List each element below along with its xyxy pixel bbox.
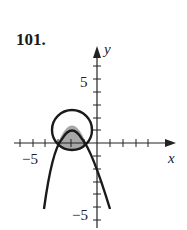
x-tick-label-neg5: −5 [22,151,38,167]
y-axis-label: y [102,41,111,57]
x-axis-label: x [167,150,175,166]
x-axis-arrow-icon [165,139,176,147]
y-tick-label-neg5: −5 [72,207,88,223]
y-axis-arrow-icon [93,46,101,58]
y-tick-label-5: 5 [80,74,88,90]
graph: y x 5 −5 −5 [0,0,187,230]
